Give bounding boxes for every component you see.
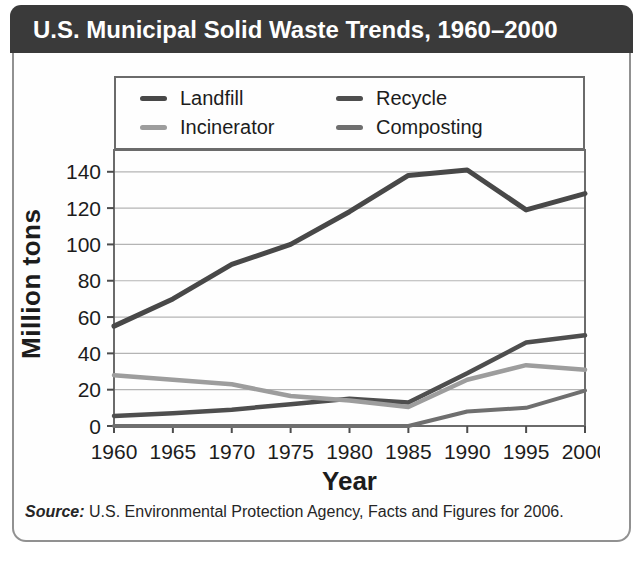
x-tick-label: 1990 <box>444 440 491 463</box>
y-tick-label: 80 <box>78 269 101 292</box>
series-line-composting <box>114 391 585 426</box>
source-text: U.S. Environmental Protection Agency, Fa… <box>85 503 564 520</box>
legend-item-composting: Composting <box>336 117 583 139</box>
x-tick-label: 2000 <box>562 440 600 463</box>
y-tick-label: 120 <box>66 197 101 220</box>
plot-area: 1960196519701975198019851990199520000204… <box>44 142 600 472</box>
x-tick-label: 1985 <box>385 440 432 463</box>
y-tick-label: 140 <box>66 160 101 183</box>
landfill-line-swatch-icon <box>140 96 167 101</box>
x-axis-title: Year <box>114 466 585 497</box>
legend-item-landfill: Landfill <box>140 88 336 110</box>
y-tick-label: 40 <box>78 342 101 365</box>
x-tick-label: 1960 <box>91 440 138 463</box>
legend-item-incinerator: Incinerator <box>140 117 336 139</box>
composting-line-swatch-icon <box>336 125 363 130</box>
series-line-landfill <box>114 170 585 326</box>
legend-label-landfill: Landfill <box>180 88 243 110</box>
series-line-incinerator <box>114 365 585 407</box>
y-tick-label: 0 <box>89 415 101 438</box>
legend-label-composting: Composting <box>376 117 483 139</box>
y-tick-label: 20 <box>78 378 101 401</box>
source-note: Source: U.S. Environmental Protection Ag… <box>25 503 605 521</box>
chart-title-bar: U.S. Municipal Solid Waste Trends, 1960–… <box>10 5 633 53</box>
chart-title: U.S. Municipal Solid Waste Trends, 1960–… <box>10 5 633 54</box>
chart-figure: U.S. Municipal Solid Waste Trends, 1960–… <box>0 0 639 561</box>
x-tick-label: 1965 <box>150 440 197 463</box>
legend-label-incinerator: Incinerator <box>180 117 275 139</box>
x-tick-label: 1995 <box>503 440 550 463</box>
recycle-line-swatch-icon <box>336 96 363 101</box>
legend-item-recycle: Recycle <box>336 88 583 110</box>
y-tick-label: 60 <box>78 306 101 329</box>
y-axis-title: Million tons <box>16 186 50 382</box>
legend-label-recycle: Recycle <box>376 88 447 110</box>
legend-box: Landfill Recycle Incinerator Composting <box>114 76 585 150</box>
series-line-recycle <box>114 335 585 416</box>
x-tick-label: 1975 <box>267 440 314 463</box>
x-tick-label: 1970 <box>208 440 255 463</box>
incinerator-line-swatch-icon <box>140 125 167 130</box>
source-label: Source: <box>25 503 85 520</box>
y-tick-label: 100 <box>66 233 101 256</box>
x-tick-label: 1980 <box>326 440 373 463</box>
plot-border <box>114 150 585 426</box>
